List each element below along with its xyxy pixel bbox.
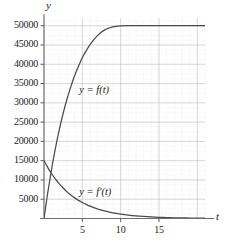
y-tick-label: 5000 <box>0 193 38 204</box>
y-tick-label: 50000 <box>0 19 38 30</box>
x-tick-label: 10 <box>106 224 136 235</box>
grid-minor <box>44 18 205 219</box>
y-tick-label: 45000 <box>0 38 38 49</box>
y-tick-label: 30000 <box>0 96 38 107</box>
grid-major <box>44 18 205 219</box>
y-tick-label: 15000 <box>0 154 38 165</box>
x-axis-label: t <box>216 210 219 222</box>
y-tick-label: 40000 <box>0 58 38 69</box>
y-tick-label: 10000 <box>0 173 38 184</box>
y-tick-label: 25000 <box>0 116 38 127</box>
x-tick-label: 5 <box>67 224 97 235</box>
axis-lines <box>40 14 214 219</box>
curve-label: y = f'(t) <box>79 186 111 197</box>
curve-label: y = f(t) <box>79 84 109 95</box>
chart-figure: y t 500010000150002000025000300003500040… <box>0 0 234 243</box>
y-tick-label: 20000 <box>0 135 38 146</box>
x-tick-label: 15 <box>144 224 174 235</box>
y-axis-label: y <box>46 0 51 11</box>
y-tick-label: 35000 <box>0 77 38 88</box>
